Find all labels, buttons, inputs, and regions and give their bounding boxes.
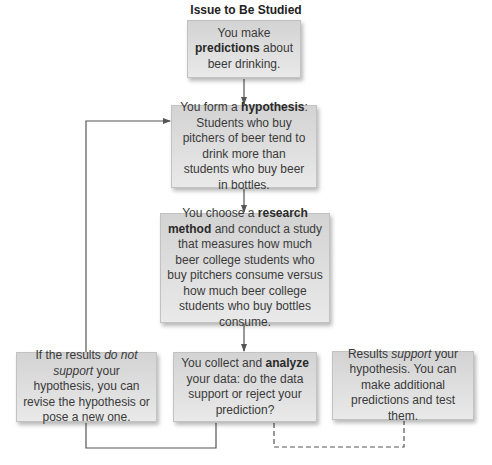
- line-analyze-to-support: [274, 421, 404, 447]
- box-analyze: You collect and analyze your data: do th…: [173, 352, 317, 422]
- line-analyze-to-not-support: [86, 423, 216, 448]
- box-hypothesis: You form a hypothesis: Students who buy …: [171, 105, 317, 188]
- box-research-method: You choose a research method and conduct…: [160, 213, 330, 323]
- box-support: Results support your hypothesis. You can…: [332, 351, 474, 420]
- box-not-support: If the results do not support your hypot…: [16, 352, 157, 422]
- arrow-revise-to-hypothesis: [86, 121, 170, 352]
- box-predictions: You make predictions about beer drinking…: [187, 20, 301, 78]
